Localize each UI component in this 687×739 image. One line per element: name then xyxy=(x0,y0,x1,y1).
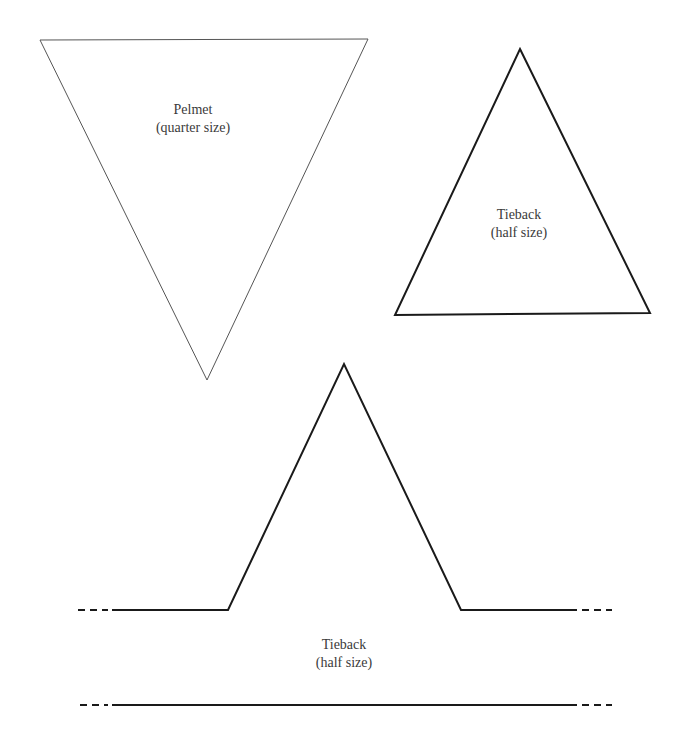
pattern-sheet xyxy=(0,0,687,739)
pelmet-scale: (quarter size) xyxy=(156,119,230,137)
pelmet-title: Pelmet xyxy=(156,101,230,119)
tieback-triangle-outline xyxy=(395,49,650,315)
pelmet-label: Pelmet (quarter size) xyxy=(156,101,230,137)
tieback-strip-title: Tieback xyxy=(316,636,372,654)
tieback-strip-label: Tieback (half size) xyxy=(316,636,372,672)
tieback-strip-scale: (half size) xyxy=(316,654,372,672)
pelmet-outline xyxy=(40,39,368,380)
tieback-triangle-label: Tieback (half size) xyxy=(491,206,547,242)
strip-top-profile xyxy=(112,364,577,610)
tieback-triangle-title: Tieback xyxy=(491,206,547,224)
tieback-triangle-scale: (half size) xyxy=(491,224,547,242)
